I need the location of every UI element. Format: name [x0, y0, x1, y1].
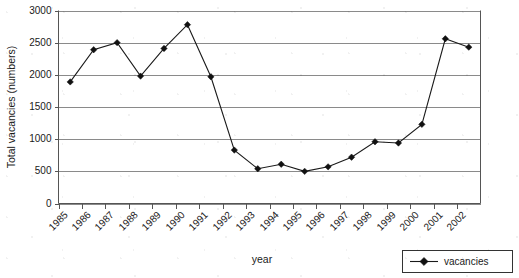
legend-label-vacancies: vacancies: [444, 256, 488, 267]
legend: vacancies: [403, 251, 513, 273]
y-axis-title: Total vacancies (numbers): [5, 46, 17, 169]
y-tick-label: 500: [35, 165, 52, 176]
y-tick-label: 1000: [29, 133, 52, 144]
y-tick-label: 0: [46, 198, 52, 209]
y-tick-label: 3000: [29, 5, 52, 16]
y-tick-label: 2000: [29, 69, 52, 80]
y-tick-label: 2500: [29, 37, 52, 48]
chart-container: 050010001500200025003000 198519861987198…: [0, 0, 519, 278]
x-axis-title: year: [252, 253, 273, 265]
y-tick-label: 1500: [29, 101, 52, 112]
line-chart: 050010001500200025003000 198519861987198…: [0, 0, 519, 278]
